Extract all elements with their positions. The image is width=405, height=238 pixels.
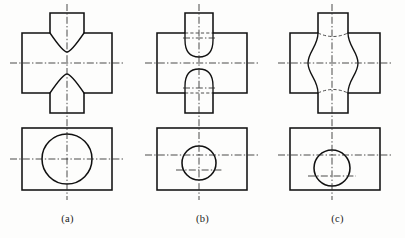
figure-c-bottom-hidden-arc	[318, 90, 348, 94]
figure-c-top-hidden-arc	[318, 33, 348, 37]
figure-c-front-view	[278, 13, 392, 113]
drawing-sheet: (a) (b) (c)	[0, 0, 405, 238]
figure-c-top-view	[278, 128, 392, 190]
figure-a	[10, 4, 124, 200]
figure-b	[145, 4, 259, 200]
figure-b-top-view	[145, 128, 259, 190]
figure-c	[278, 4, 392, 200]
figure-c-top-outline	[290, 128, 380, 190]
figure-b-top-outline	[157, 128, 247, 190]
figure-b-front-view	[145, 13, 259, 113]
engineering-drawing-canvas	[0, 0, 405, 238]
